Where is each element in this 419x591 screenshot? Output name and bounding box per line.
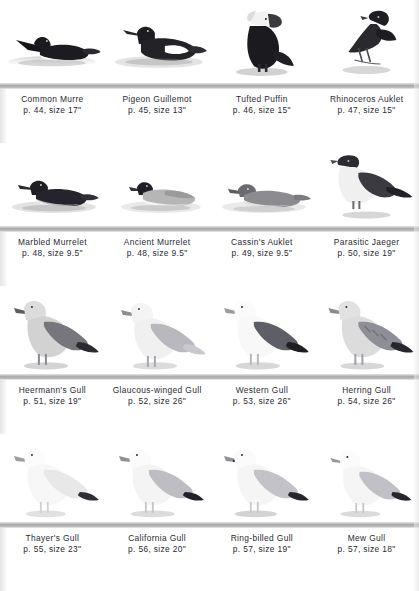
species-name: Herring Gull	[314, 385, 419, 396]
bird-cell-herring-gull[interactable]	[314, 286, 419, 374]
bird-cell-ring-billed-gull[interactable]	[210, 434, 315, 522]
rhinoceros-auklet-illustration	[314, 0, 419, 83]
caption-common-murre: Common Murre p. 44, size 17"	[0, 94, 105, 143]
bird-cell-heermanns-gull[interactable]	[0, 286, 105, 374]
illustration-strip-1	[0, 0, 419, 83]
bird-cell-western-gull[interactable]	[210, 286, 315, 374]
plate-row-4: Thayer's Gull p. 55, size 23" California…	[0, 434, 419, 582]
common-murre-illustration	[0, 0, 105, 83]
plate-row-1: Common Murre p. 44, size 17" Pigeon Guil…	[0, 0, 419, 143]
species-page-size: p. 51, size 19"	[0, 396, 105, 407]
caption-rhinoceros-auklet: Rhinoceros Auklet p. 47, size 15"	[314, 94, 419, 143]
caption-western-gull: Western Gull p. 53, size 26"	[210, 385, 315, 434]
species-name: Glaucous-winged Gull	[105, 385, 210, 396]
caption-marbled-murrelet: Marbled Murrelet p. 48, size 9.5"	[0, 237, 105, 286]
species-page-size: p. 55, size 23"	[0, 544, 105, 555]
thayers-gull-illustration	[0, 434, 105, 522]
species-name: Ring-billed Gull	[210, 533, 315, 544]
caption-ancient-murrelet: Ancient Murrelet p. 48, size 9.5"	[105, 237, 210, 286]
glaucous-winged-gull-illustration	[105, 286, 210, 374]
caption-heermanns-gull: Heermann's Gull p. 51, size 19"	[0, 385, 105, 434]
caption-row-1: Common Murre p. 44, size 17" Pigeon Guil…	[0, 89, 419, 143]
illustration-strip-4	[0, 434, 419, 522]
bird-cell-common-murre[interactable]	[0, 0, 105, 83]
species-page-size: p. 48, size 9.5"	[105, 248, 210, 259]
species-name: Parasitic Jaeger	[314, 237, 419, 248]
caption-parasitic-jaeger: Parasitic Jaeger p. 50, size 19"	[314, 237, 419, 286]
species-name: Common Murre	[0, 94, 105, 105]
species-name: Heermann's Gull	[0, 385, 105, 396]
bird-cell-thayers-gull[interactable]	[0, 434, 105, 522]
caption-ring-billed-gull: Ring-billed Gull p. 57, size 19"	[210, 533, 315, 582]
herring-gull-illustration	[314, 286, 419, 374]
caption-pigeon-guillemot: Pigeon Guillemot p. 45, size 13"	[105, 94, 210, 143]
species-name: Marbled Murrelet	[0, 237, 105, 248]
plate-row-2: Marbled Murrelet p. 48, size 9.5" Ancien…	[0, 143, 419, 286]
species-page-size: p. 49, size 9.5"	[210, 248, 315, 259]
species-page-size: p. 45, size 13"	[105, 105, 210, 116]
species-name: Tufted Puffin	[210, 94, 315, 105]
species-page-size: p. 50, size 19"	[314, 248, 419, 259]
bird-cell-ancient-murrelet[interactable]	[105, 143, 210, 226]
species-page-size: p. 53, size 26"	[210, 396, 315, 407]
caption-tufted-puffin: Tufted Puffin p. 46, size 15"	[210, 94, 315, 143]
bird-cell-tufted-puffin[interactable]	[210, 0, 315, 83]
mew-gull-illustration	[314, 434, 419, 522]
ring-billed-gull-illustration	[210, 434, 315, 522]
caption-row-2: Marbled Murrelet p. 48, size 9.5" Ancien…	[0, 232, 419, 286]
species-page-size: p. 56, size 20"	[105, 544, 210, 555]
caption-thayers-gull: Thayer's Gull p. 55, size 23"	[0, 533, 105, 582]
caption-row-3: Heermann's Gull p. 51, size 19" Glaucous…	[0, 380, 419, 434]
caption-cassins-auklet: Cassin's Auklet p. 49, size 9.5"	[210, 237, 315, 286]
species-name: Thayer's Gull	[0, 533, 105, 544]
bird-cell-california-gull[interactable]	[105, 434, 210, 522]
species-name: Western Gull	[210, 385, 315, 396]
caption-glaucous-winged-gull: Glaucous-winged Gull p. 52, size 26"	[105, 385, 210, 434]
california-gull-illustration	[105, 434, 210, 522]
marbled-murrelet-illustration	[0, 143, 105, 226]
parasitic-jaeger-illustration	[314, 143, 419, 226]
plate-row-3: Heermann's Gull p. 51, size 19" Glaucous…	[0, 286, 419, 434]
pigeon-guillemot-illustration	[105, 0, 210, 83]
illustration-strip-2	[0, 143, 419, 226]
bird-cell-mew-gull[interactable]	[314, 434, 419, 522]
species-name: Ancient Murrelet	[105, 237, 210, 248]
caption-row-4: Thayer's Gull p. 55, size 23" California…	[0, 528, 419, 582]
bird-cell-marbled-murrelet[interactable]	[0, 143, 105, 226]
illustration-strip-3	[0, 286, 419, 374]
species-page-size: p. 57, size 18"	[314, 544, 419, 555]
species-page-size: p. 48, size 9.5"	[0, 248, 105, 259]
bird-cell-pigeon-guillemot[interactable]	[105, 0, 210, 83]
species-name: Pigeon Guillemot	[105, 94, 210, 105]
species-page-size: p. 46, size 15"	[210, 105, 315, 116]
tufted-puffin-illustration	[210, 0, 315, 83]
species-page-size: p. 52, size 26"	[105, 396, 210, 407]
caption-mew-gull: Mew Gull p. 57, size 18"	[314, 533, 419, 582]
caption-california-gull: California Gull p. 56, size 20"	[105, 533, 210, 582]
field-guide-page: Common Murre p. 44, size 17" Pigeon Guil…	[0, 0, 419, 591]
caption-herring-gull: Herring Gull p. 54, size 26"	[314, 385, 419, 434]
heermanns-gull-illustration	[0, 286, 105, 374]
species-page-size: p. 54, size 26"	[314, 396, 419, 407]
ancient-murrelet-illustration	[105, 143, 210, 226]
cassins-auklet-illustration	[210, 143, 315, 226]
western-gull-illustration	[210, 286, 315, 374]
species-name: California Gull	[105, 533, 210, 544]
species-page-size: p. 44, size 17"	[0, 105, 105, 116]
bird-cell-parasitic-jaeger[interactable]	[314, 143, 419, 226]
bird-cell-cassins-auklet[interactable]	[210, 143, 315, 226]
species-name: Rhinoceros Auklet	[314, 94, 419, 105]
species-name: Cassin's Auklet	[210, 237, 315, 248]
species-name: Mew Gull	[314, 533, 419, 544]
bird-cell-glaucous-winged-gull[interactable]	[105, 286, 210, 374]
species-page-size: p. 47, size 15"	[314, 105, 419, 116]
bird-cell-rhinoceros-auklet[interactable]	[314, 0, 419, 83]
species-page-size: p. 57, size 19"	[210, 544, 315, 555]
